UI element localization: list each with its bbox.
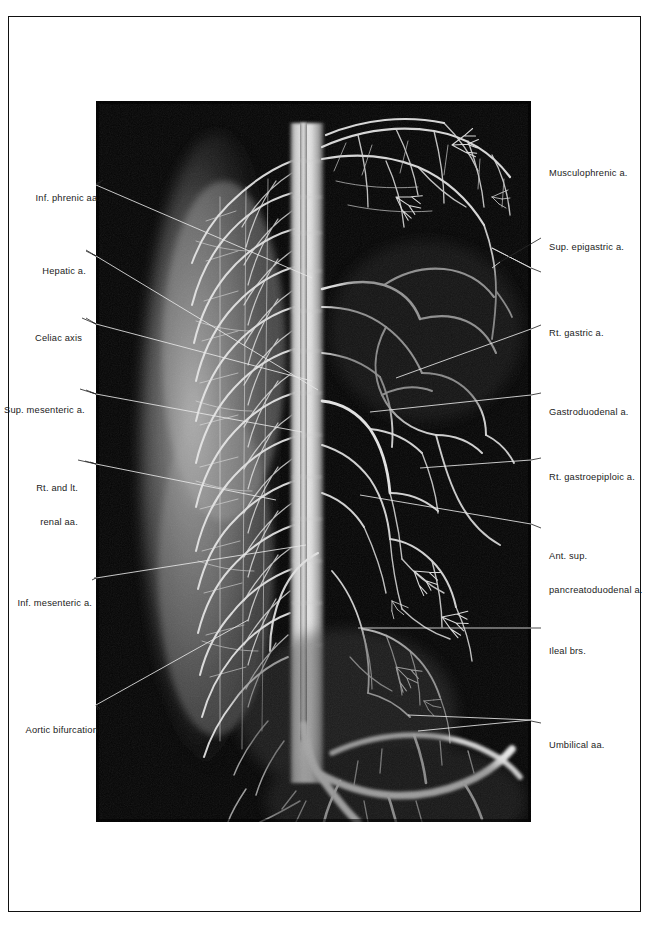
label-line: Inf. phrenic aa. [8, 193, 100, 204]
label-musculophrenic-a: Musculophrenic a. [549, 145, 645, 202]
label-line: Rt. gastric a. [549, 328, 641, 339]
label-sup-mesenteric-a: Sup. mesenteric a. [4, 382, 80, 439]
label-line: Sup. mesenteric a. [4, 405, 80, 416]
label-line: Ant. sup. [549, 551, 649, 562]
label-line: renal aa. [4, 517, 78, 528]
angiogram-plate [96, 101, 531, 822]
label-celiac-axis: Celiac axis [8, 310, 82, 367]
label-line: Gastroduodenal a. [549, 407, 647, 418]
label-line: Inf. mesenteric a. [4, 598, 92, 609]
label-line: Umbilical aa. [549, 740, 639, 751]
label-line: Celiac axis [8, 333, 82, 344]
label-line: Sup. epigastric a. [549, 242, 645, 253]
label-line: Aortic bifurcation [4, 725, 98, 736]
label-hepatic-a: Hepatic a. [8, 243, 86, 300]
label-line: Hepatic a. [8, 266, 86, 277]
running-head [0, 0, 650, 2]
label-ant-sup-pancreatoduodenal-a: Ant. sup. pancreatoduodenal a. [549, 528, 649, 619]
label-inf-mesenteric-a: Inf. mesenteric a. [4, 575, 92, 632]
label-line: Ileal brs. [549, 646, 629, 657]
label-sup-epigastric-a: Sup. epigastric a. [549, 219, 645, 276]
label-aortic-bifurcation: Aortic bifurcation [4, 702, 98, 759]
label-gastroduodenal-a: Gastroduodenal a. [549, 384, 647, 441]
label-ileal-brs: Ileal brs. [549, 623, 629, 680]
figure-page: Inf. phrenic aa. Hepatic a. Celiac axis … [0, 0, 650, 928]
label-rt-gastric-a: Rt. gastric a. [549, 305, 641, 362]
label-inf-phrenic-aa: Inf. phrenic aa. [8, 170, 100, 227]
label-rt-gastroepiploic-a: Rt. gastroepiploic a. [549, 449, 649, 506]
label-line: Rt. gastroepiploic a. [549, 472, 649, 483]
label-rt-and-lt-renal-aa: Rt. and lt. renal aa. [4, 460, 78, 551]
label-umbilical-aa: Umbilical aa. [549, 717, 639, 774]
label-line: Rt. and lt. [4, 483, 78, 494]
label-line: Musculophrenic a. [549, 168, 645, 179]
label-line: pancreatoduodenal a. [549, 585, 649, 596]
